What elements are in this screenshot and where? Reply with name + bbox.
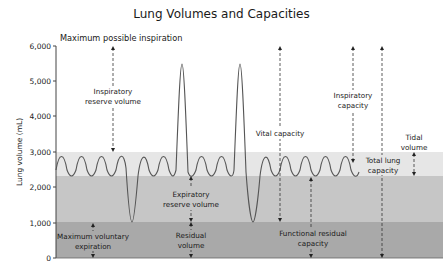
y-tick-6000: 6,000 xyxy=(30,42,52,51)
y-axis-label: Lung volume (mL) xyxy=(15,118,24,186)
label-vital-capacity: Vital capacity xyxy=(256,129,305,138)
y-tick-5000: 5,000 xyxy=(30,77,52,86)
label-tv-line1: Tidal xyxy=(404,133,422,142)
y-tick-1000: 1,000 xyxy=(30,219,52,228)
label-irv-line2: reserve volume xyxy=(85,97,142,106)
label-tlc-line1: Total lung xyxy=(365,156,401,165)
y-tick-2000: 2,000 xyxy=(30,183,52,192)
label-tv-line2: volume xyxy=(401,143,428,152)
label-erv-line2: reserve volume xyxy=(163,200,220,209)
label-rv-line2: volume xyxy=(178,241,205,250)
label-ic-line1: Inspiratory xyxy=(334,91,374,100)
lung-volume-chart: 6,000 5,000 4,000 3,000 2,000 1,000 0 Lu… xyxy=(0,0,443,276)
label-rv-line1: Residual xyxy=(176,231,206,240)
label-tlc-line2: capacity xyxy=(368,166,399,175)
y-tick-4000: 4,000 xyxy=(30,112,52,121)
y-tick-3000: 3,000 xyxy=(30,148,52,157)
y-tick-0: 0 xyxy=(46,254,51,263)
label-mve-line2: expiration xyxy=(75,242,111,251)
label-frc-line2: capacity xyxy=(298,239,329,248)
label-frc-line1: Functional residual xyxy=(279,229,347,238)
expiratory-reserve-band xyxy=(56,176,443,222)
label-erv-line1: Expiratory xyxy=(172,190,210,199)
label-ic-line2: capacity xyxy=(338,101,369,110)
label-mve-line1: Maximum voluntary xyxy=(57,232,130,241)
label-irv-line1: Inspiratory xyxy=(94,87,134,96)
label-max-inspiration: Maximum possible inspiration xyxy=(60,33,182,43)
